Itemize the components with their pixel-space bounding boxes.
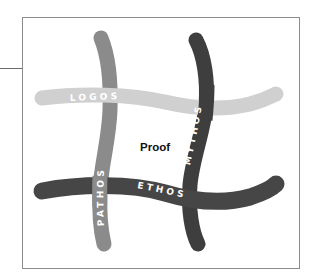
center-label-proof: Proof	[140, 141, 170, 153]
pathos-label: PATHOS	[95, 167, 106, 227]
mythos-overlap-segment	[205, 85, 207, 120]
logos-label: LOGOS	[70, 91, 121, 103]
rhetoric-proof-diagram: LOGOS ETHOS PATHOS MYTHOS Proof	[0, 0, 314, 280]
